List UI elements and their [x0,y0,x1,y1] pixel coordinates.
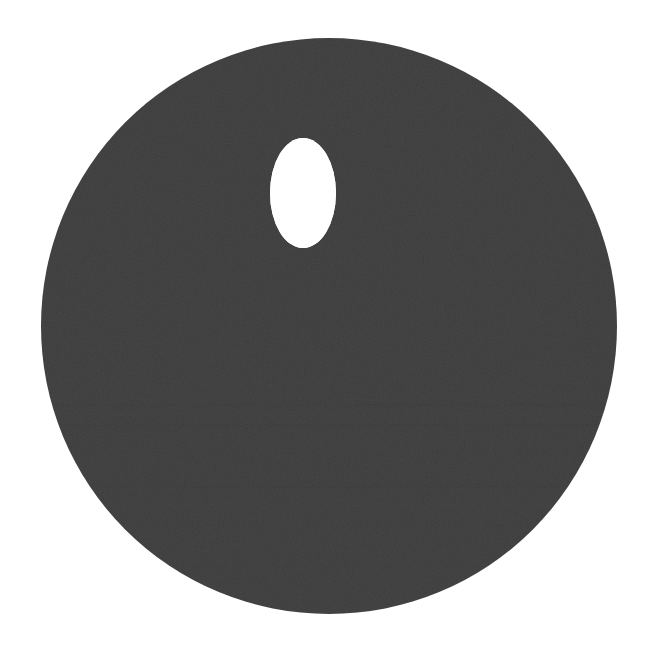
disc-figure [0,0,652,654]
figure-canvas [0,0,652,654]
disc-grain [0,0,652,654]
oval-hole [270,138,336,248]
